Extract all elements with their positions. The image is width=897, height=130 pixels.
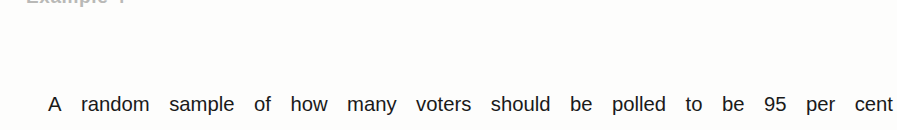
word: per [806, 90, 835, 118]
word: 95 [764, 90, 787, 118]
word: polled [612, 90, 666, 118]
first-line-indent [5, 90, 48, 118]
document-page: Example 4 A random sample of how many vo… [0, 0, 897, 130]
paragraph-line-1: A random sample of how many voters shoul… [5, 90, 893, 118]
word: many [347, 90, 397, 118]
word: to [686, 90, 703, 118]
word: cent [855, 90, 893, 118]
word: voters [416, 90, 471, 118]
word: be [570, 90, 593, 118]
word: sample [169, 90, 234, 118]
word: A [48, 90, 62, 118]
word: be [722, 90, 745, 118]
word: of [254, 90, 271, 118]
word: random [81, 90, 150, 118]
word: how [290, 90, 327, 118]
body-paragraph: A random sample of how many voters shoul… [5, 6, 893, 130]
word: should [491, 90, 551, 118]
